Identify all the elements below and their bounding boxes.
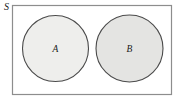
- venn-diagram-container: S A B: [0, 0, 182, 101]
- universal-set-label: S: [4, 1, 9, 12]
- set-a-label: A: [52, 44, 59, 54]
- venn-diagram-svg: S A B: [0, 0, 182, 101]
- set-b-label: B: [127, 44, 133, 54]
